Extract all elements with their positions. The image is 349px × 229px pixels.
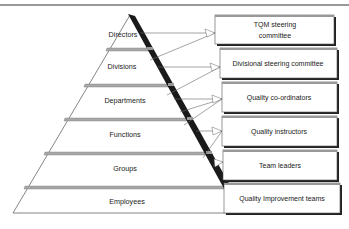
role-box-quality-instructors: Quality instructors [222,116,339,148]
role-box-team-leaders: Team leaders [223,150,339,182]
level-label-divisions: Divisions [108,62,137,71]
level-label-functions: Functions [109,130,141,139]
pyramid [13,14,245,214]
svg-text:Team leaders: Team leaders [259,162,302,169]
role-box-tqm-steering-committee: TQM steering committee [215,15,336,46]
level-label-departments: Departments [104,96,146,105]
level-label-directors: Directors [109,30,138,39]
quality-organisation-diagram: Directors Divisions Departments Function… [0,0,349,229]
quality-role-boxes: TQM steering committee Divisional steeri… [215,15,342,215]
svg-text:Quality instructors: Quality instructors [251,128,308,136]
svg-text:Divisional steering committee: Divisional steering committee [232,60,323,68]
svg-text:Quality Improvement teams: Quality Improvement teams [239,195,325,203]
svg-text:committee: committee [259,32,291,39]
role-box-divisional-steering-committee: Divisional steering committee [220,48,339,80]
svg-text:Quality co-ordinators: Quality co-ordinators [247,94,312,102]
svg-text:TQM steering: TQM steering [254,21,297,29]
level-label-employees: Employees [109,197,145,206]
level-label-groups: Groups [113,164,137,173]
role-box-quality-coordinators: Quality co-ordinators [222,82,339,114]
role-box-quality-improvement-teams: Quality Improvement teams [224,183,342,215]
